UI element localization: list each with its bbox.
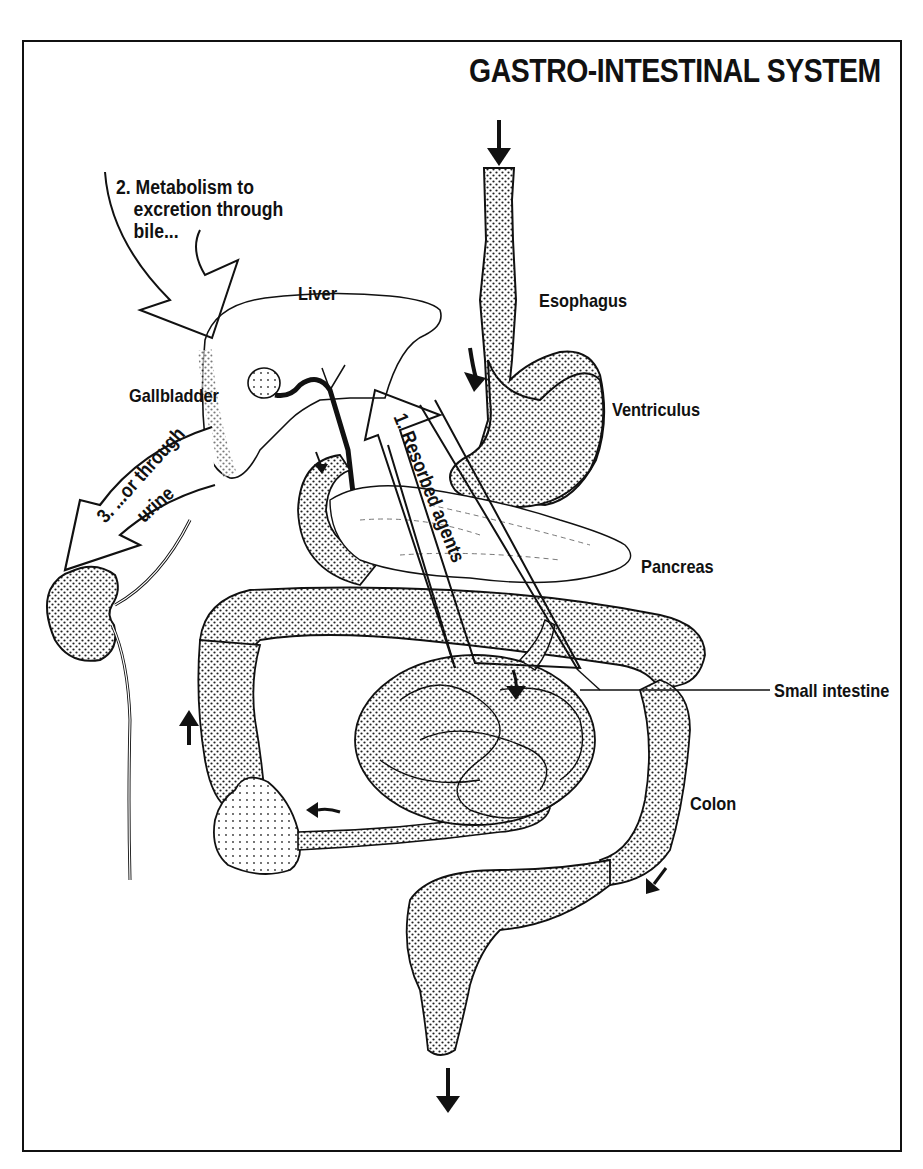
arrow-down-rectum-icon	[436, 1068, 460, 1113]
arrow-down-esophagus-icon	[487, 120, 511, 166]
label-liver: Liver	[298, 284, 337, 303]
ureter	[112, 625, 130, 880]
pancreas	[330, 486, 631, 583]
pathway-2-line-1: 2. Metabolism to	[116, 176, 283, 198]
page-title: GASTRO-INTESTINAL SYSTEM	[469, 52, 881, 90]
arrow-into-stomach-icon	[464, 348, 486, 392]
label-colon: Colon	[690, 794, 736, 813]
label-small-intestine: Small intestine	[774, 681, 889, 700]
label-gallbladder: Gallbladder	[129, 386, 219, 405]
pathway-2-line-2: excretion through	[116, 198, 283, 220]
urine-arrow	[65, 427, 215, 570]
sigmoid-rectum	[407, 860, 610, 1055]
label-ventriculus: Ventriculus	[612, 400, 700, 419]
label-pancreas: Pancreas	[641, 557, 714, 576]
kidney	[47, 567, 118, 661]
pathway-2-line-3: bile...	[116, 220, 283, 242]
gallbladder	[248, 368, 280, 398]
descending-colon	[600, 680, 690, 885]
arrow-ileum-to-cecum-icon	[306, 802, 340, 818]
renal-vessel	[115, 520, 190, 605]
pathway-2-label: 2. Metabolism to excretion through bile.…	[116, 176, 283, 242]
arrow-ascending-colon-up-icon	[179, 710, 199, 745]
label-esophagus: Esophagus	[539, 291, 627, 310]
